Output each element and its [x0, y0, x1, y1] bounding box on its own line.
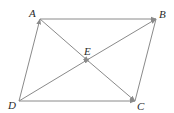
segment-bc	[135, 19, 156, 101]
label-e: E	[83, 45, 91, 57]
label-b: B	[159, 8, 166, 20]
vector-da	[19, 19, 40, 101]
parallelogram-diagram: A B C D E	[0, 0, 174, 113]
label-d: D	[7, 99, 16, 111]
label-c: C	[137, 100, 145, 112]
vector-ac	[40, 19, 135, 101]
label-a: A	[28, 7, 36, 19]
